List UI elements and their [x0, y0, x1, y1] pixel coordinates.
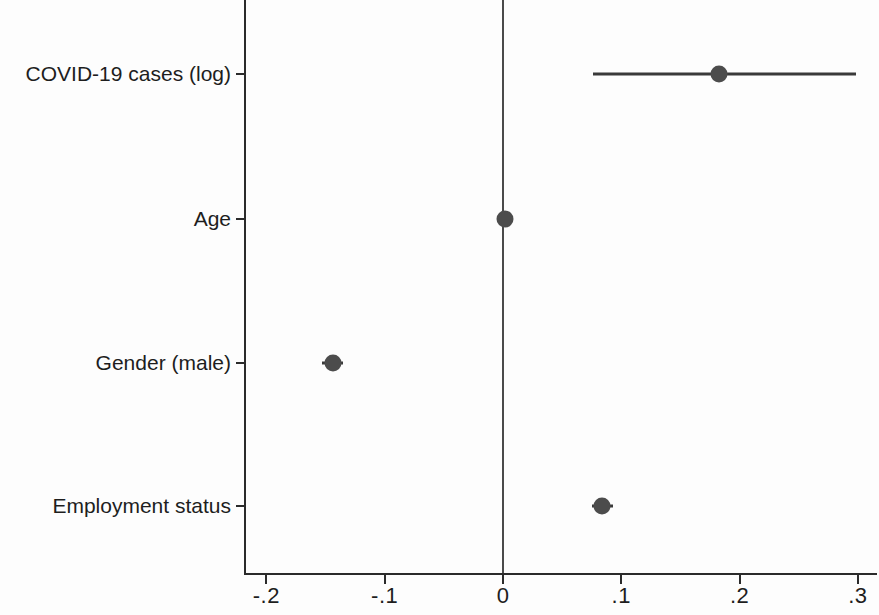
y-axis-label-covid-cases: COVID-19 cases (log)	[26, 62, 231, 86]
y-axis-tick	[236, 73, 245, 75]
y-axis-label-gender: Gender (male)	[96, 351, 231, 375]
x-axis-tick-label: -.1	[371, 583, 398, 609]
point-estimate-marker	[594, 498, 611, 515]
x-axis-tick-label: 0	[497, 583, 510, 609]
y-axis-label-employment-status: Employment status	[52, 494, 231, 518]
y-axis-labels: COVID-19 cases (log) Age Gender (male) E…	[0, 0, 231, 575]
coefficient-plot-figure: COVID-19 cases (log) Age Gender (male) E…	[0, 0, 879, 615]
point-estimate-marker	[497, 211, 514, 228]
y-axis-spine	[244, 0, 246, 575]
y-axis-tick	[236, 505, 245, 507]
y-axis-label-age: Age	[194, 207, 231, 231]
point-estimate-marker	[324, 355, 341, 372]
x-axis-tick-label: .3	[848, 583, 867, 609]
point-estimate-marker	[711, 66, 728, 83]
x-axis-tick-label: .1	[612, 583, 631, 609]
y-axis-tick	[236, 218, 245, 220]
x-axis-tick-label: -.2	[253, 583, 280, 609]
x-axis-tick-label: .2	[730, 583, 749, 609]
y-axis-tick	[236, 362, 245, 364]
zero-reference-line	[502, 0, 504, 573]
x-axis-spine	[244, 573, 877, 575]
